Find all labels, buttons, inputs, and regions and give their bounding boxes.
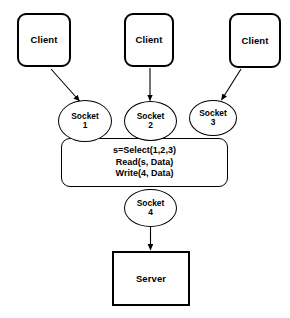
write-call-line: Write(4, Data) — [116, 168, 174, 180]
client-node-3-label: Client — [242, 36, 269, 46]
arrow-client3-to-socket3 — [222, 69, 242, 100]
socket-node-4: Socket 4 — [124, 189, 177, 227]
socket-node-3: Socket 3 — [189, 100, 237, 136]
arrow-client1-to-socket1 — [51, 69, 80, 101]
server-node: Server — [112, 251, 190, 306]
socket-node-1-number: 1 — [83, 121, 88, 131]
client-node-2: Client — [124, 13, 174, 67]
select-call-line: s=Select(1,2,3) — [113, 145, 176, 157]
server-node-label: Server — [136, 274, 166, 284]
socket-node-1: Socket 1 — [58, 100, 112, 142]
client-node-1: Client — [17, 13, 71, 67]
read-call-line: Read(s, Data) — [116, 157, 174, 169]
diagram-canvas: Client Client Client s=Select(1,2,3) Rea… — [0, 0, 290, 318]
socket-node-3-number: 3 — [211, 118, 216, 128]
client-node-3: Client — [229, 13, 281, 68]
select-operations-box: s=Select(1,2,3) Read(s, Data) Write(4, D… — [61, 138, 228, 187]
client-node-2-label: Client — [136, 35, 163, 45]
socket-node-2-number: 2 — [148, 121, 153, 131]
client-node-1-label: Client — [31, 35, 58, 45]
socket-node-4-number: 4 — [148, 208, 153, 218]
socket-node-2: Socket 2 — [124, 101, 177, 141]
